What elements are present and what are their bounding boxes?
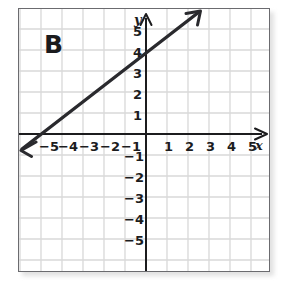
x-tick-label-1: 1 — [164, 140, 173, 153]
coordinate-plane: −5 −4 −3 −2 −1 1 2 3 4 5 5 4 3 2 1 −1 −2… — [18, 8, 270, 272]
y-tick-label--3: −3 — [124, 192, 144, 205]
x-axis-label: x — [255, 139, 263, 152]
y-tick-label-1: 1 — [133, 109, 142, 122]
y-tick-label--5: −5 — [124, 234, 144, 247]
y-tick-label--4: −4 — [124, 213, 144, 226]
graph-figure: −5 −4 −3 −2 −1 1 2 3 4 5 5 4 3 2 1 −1 −2… — [0, 0, 284, 294]
x-tick-label-4: 4 — [227, 140, 236, 153]
y-tick-label--1: −1 — [124, 150, 144, 163]
y-tick-label--2: −2 — [124, 171, 144, 184]
y-tick-label-2: 2 — [133, 88, 142, 101]
y-tick-label-3: 3 — [133, 67, 142, 80]
x-tick-label--5: −5 — [39, 140, 59, 153]
y-axis-label: y — [134, 13, 142, 26]
x-tick-label-3: 3 — [206, 140, 215, 153]
y-tick-label-4: 4 — [133, 46, 142, 59]
graph-label: B — [44, 32, 63, 57]
x-tick-label--2: −2 — [100, 140, 120, 153]
x-tick-label-2: 2 — [185, 140, 194, 153]
x-tick-label--3: −3 — [79, 140, 99, 153]
x-tick-label--4: −4 — [58, 140, 78, 153]
